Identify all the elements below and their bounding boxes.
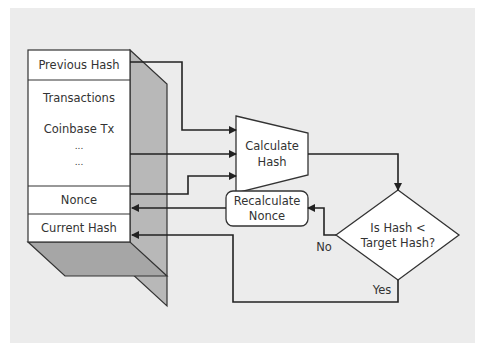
block-field-current-hash: Current Hash bbox=[28, 221, 130, 235]
decision-no-label: No bbox=[314, 240, 334, 254]
block-field-previous-hash: Previous Hash bbox=[28, 58, 130, 72]
block-field-nonce: Nonce bbox=[28, 193, 130, 207]
decision-line2: Target Hash? bbox=[358, 236, 438, 250]
recalculate-nonce-line2: Nonce bbox=[226, 209, 308, 223]
block-field-coinbase-tx: Coinbase Tx bbox=[28, 122, 130, 136]
decision-line1: Is Hash < bbox=[358, 221, 438, 235]
calculate-hash-line1: Calculate bbox=[236, 139, 308, 153]
block-field-ellipsis-1: ... bbox=[28, 139, 130, 153]
flowchart-graphic bbox=[0, 0, 485, 351]
decision-yes-label: Yes bbox=[370, 283, 394, 297]
block-field-transactions: Transactions bbox=[28, 91, 130, 105]
calculate-hash-line2: Hash bbox=[236, 155, 308, 169]
decision-diamond bbox=[336, 190, 459, 280]
block-field-ellipsis-2: ... bbox=[28, 155, 130, 169]
recalculate-nonce-line1: Recalculate bbox=[226, 194, 308, 208]
